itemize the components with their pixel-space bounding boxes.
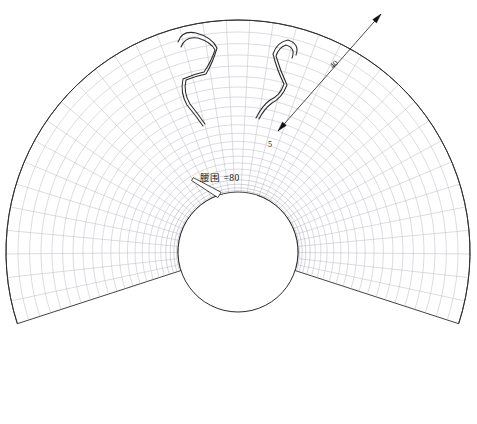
waist-circumference-label: 腰围 =80 bbox=[200, 170, 240, 184]
pattern-drawing bbox=[0, 0, 477, 424]
seam-allowance-label: 5 bbox=[268, 140, 272, 149]
pattern-draft-canvas: 腰围 =80 40 5 bbox=[0, 0, 477, 424]
ribbon-details bbox=[178, 32, 297, 126]
